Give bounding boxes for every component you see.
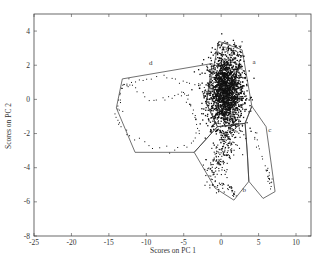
x-axis-label: Scores on PC 1 xyxy=(150,246,196,255)
y-tick-label: 0 xyxy=(26,95,30,104)
y-tick-label: -2 xyxy=(24,129,30,138)
y-axis-label: Scores on PC 2 xyxy=(4,103,13,149)
x-tick-label: -15 xyxy=(104,238,114,247)
x-tick-label: -20 xyxy=(66,238,76,247)
region-d-boundary xyxy=(116,64,217,153)
y-tick-label: 2 xyxy=(26,61,30,70)
region-b-label: b xyxy=(243,186,247,194)
y-tick-label: -8 xyxy=(24,232,30,241)
axes: -25-20-15-10-50510-8-6-4-2024abcd xyxy=(24,14,311,247)
x-tick-label: 5 xyxy=(257,238,261,247)
x-tick-label: -25 xyxy=(29,238,39,247)
region-c-label: c xyxy=(268,126,271,134)
pca-score-plot: -25-20-15-10-50510-8-6-4-2024abcd Scores… xyxy=(0,0,329,264)
plot-area xyxy=(114,33,272,197)
x-tick-label: 10 xyxy=(292,238,300,247)
x-tick-label: 0 xyxy=(219,238,223,247)
y-tick-label: 4 xyxy=(26,27,30,36)
y-tick-label: -6 xyxy=(24,197,30,206)
region-c-boundary xyxy=(245,106,275,198)
region-d-label: d xyxy=(149,59,153,67)
y-tick-label: -4 xyxy=(24,163,30,172)
region-a-label: a xyxy=(253,58,257,66)
